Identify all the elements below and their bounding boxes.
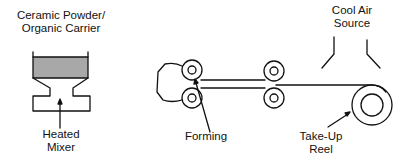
take-up-reel-label: Take-Up Reel xyxy=(288,130,354,156)
forming-pointer-arrow xyxy=(196,83,210,132)
material-loop xyxy=(157,63,182,101)
forming-rollers-left xyxy=(182,60,202,108)
take-up-reel xyxy=(352,85,392,125)
reel-pointer-arrow xyxy=(328,114,348,127)
mixer-input-label-line1: Ceramic Powder/ xyxy=(8,9,114,22)
take-up-reel-label-line2: Reel xyxy=(288,143,354,156)
heated-mixer xyxy=(33,52,90,128)
heated-mixer-label-line2: Mixer xyxy=(34,141,88,154)
mixer-input-label: Ceramic Powder/ Organic Carrier xyxy=(8,9,114,35)
cool-air-source-label: Cool Air Source xyxy=(318,4,386,30)
forming-label: Forming xyxy=(170,130,242,143)
forming-label-line1: Forming xyxy=(170,130,242,143)
take-up-reel-label-line1: Take-Up xyxy=(288,130,354,143)
heated-mixer-label-line1: Heated xyxy=(34,128,88,141)
cool-air-label-line1: Cool Air xyxy=(318,4,386,17)
cool-air-label-line2: Source xyxy=(318,17,386,30)
mixer-material-fill xyxy=(33,57,88,78)
heated-mixer-label: Heated Mixer xyxy=(34,128,88,154)
cool-air-nozzle xyxy=(322,37,380,68)
mixer-input-label-line2: Organic Carrier xyxy=(8,22,114,35)
